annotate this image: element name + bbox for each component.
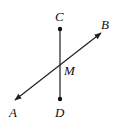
label-m: M [63, 63, 76, 78]
point-d-dot [58, 97, 62, 101]
label-b: B [101, 17, 109, 32]
geometry-diagram: C D M A B [0, 0, 115, 134]
label-a: A [8, 105, 17, 120]
label-c: C [55, 9, 64, 24]
label-d: D [54, 105, 65, 120]
line-ab [15, 33, 101, 100]
point-c-dot [58, 27, 62, 31]
